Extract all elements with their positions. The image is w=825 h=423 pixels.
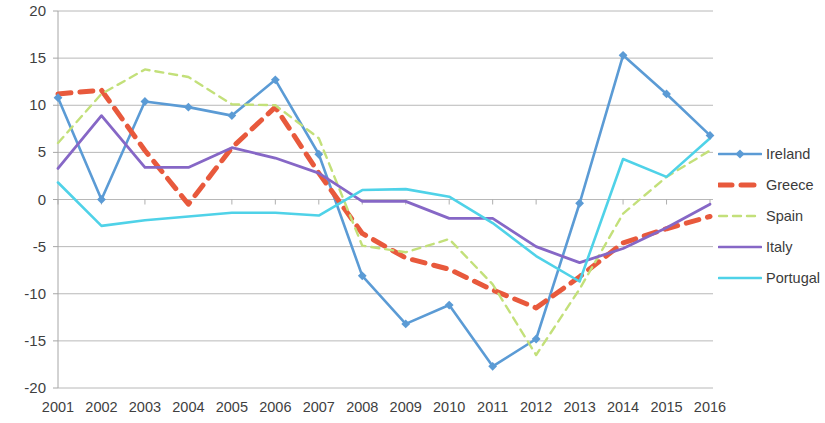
legend-swatch-italy-icon — [718, 237, 762, 257]
y-axis-label-neg20: -20 — [2, 380, 46, 395]
data-point-marker-ireland — [97, 195, 106, 204]
legend-item-portugal[interactable]: Portugal — [718, 262, 822, 293]
series-line-spain — [58, 69, 710, 355]
x-axis-label-2016: 2016 — [687, 400, 733, 415]
x-axis-label-2001: 2001 — [35, 400, 81, 415]
legend-item-ireland[interactable]: Ireland — [718, 138, 822, 169]
y-axis-label-neg15: -15 — [2, 333, 46, 348]
legend-item-italy[interactable]: Italy — [718, 231, 822, 262]
y-axis-label-neg10: -10 — [2, 286, 46, 301]
series-line-portugal — [58, 138, 710, 281]
legend-swatch-portugal-icon — [718, 268, 762, 288]
x-axis-label-2005: 2005 — [209, 400, 255, 415]
x-axis-label-2002: 2002 — [78, 400, 124, 415]
x-axis-label-2009: 2009 — [383, 400, 429, 415]
x-axis-label-2004: 2004 — [165, 400, 211, 415]
gridlines — [58, 11, 713, 388]
x-axis-label-2012: 2012 — [513, 400, 559, 415]
x-axis-label-2008: 2008 — [339, 400, 385, 415]
chart-container: 20151050-5-10-15-20 20012002200320042005… — [0, 0, 825, 423]
legend-swatch-spain-icon — [718, 206, 762, 226]
legend-label-portugal: Portugal — [762, 270, 820, 286]
legend-label-ireland: Ireland — [762, 146, 810, 162]
x-axis-label-2007: 2007 — [296, 400, 342, 415]
x-axis-label-2010: 2010 — [426, 400, 472, 415]
x-axis-label-2013: 2013 — [557, 400, 603, 415]
y-axis-label-5: 5 — [2, 144, 46, 159]
series-line-greece — [58, 90, 710, 308]
x-axis-label-2011: 2011 — [470, 400, 516, 415]
legend-item-spain[interactable]: Spain — [718, 200, 822, 231]
legend-label-greece: Greece — [762, 177, 814, 193]
y-axis-label-neg5: -5 — [2, 239, 46, 254]
y-axis-label-15: 15 — [2, 50, 46, 65]
legend-label-spain: Spain — [762, 208, 803, 224]
series-lines — [58, 55, 710, 366]
legend-item-greece[interactable]: Greece — [718, 169, 822, 200]
y-axis-label-0: 0 — [2, 192, 46, 207]
x-axis-label-2006: 2006 — [252, 400, 298, 415]
data-point-marker-ireland — [184, 103, 193, 112]
data-point-marker-ireland — [141, 97, 150, 106]
axis-lines — [53, 11, 58, 388]
series-line-ireland — [58, 55, 710, 366]
y-axis-label-10: 10 — [2, 97, 46, 112]
y-axis-label-20: 20 — [2, 3, 46, 18]
data-point-marker-ireland — [575, 199, 584, 208]
x-axis-label-2015: 2015 — [644, 400, 690, 415]
legend-swatch-ireland-icon — [718, 144, 762, 164]
series-markers — [54, 51, 715, 371]
chart-legend: IrelandGreeceSpainItalyPortugal — [718, 138, 822, 293]
legend-label-italy: Italy — [762, 239, 793, 255]
legend-swatch-greece-icon — [718, 175, 762, 195]
x-axis-label-2003: 2003 — [122, 400, 168, 415]
line-chart-plot — [0, 0, 825, 423]
x-axis-label-2014: 2014 — [600, 400, 646, 415]
